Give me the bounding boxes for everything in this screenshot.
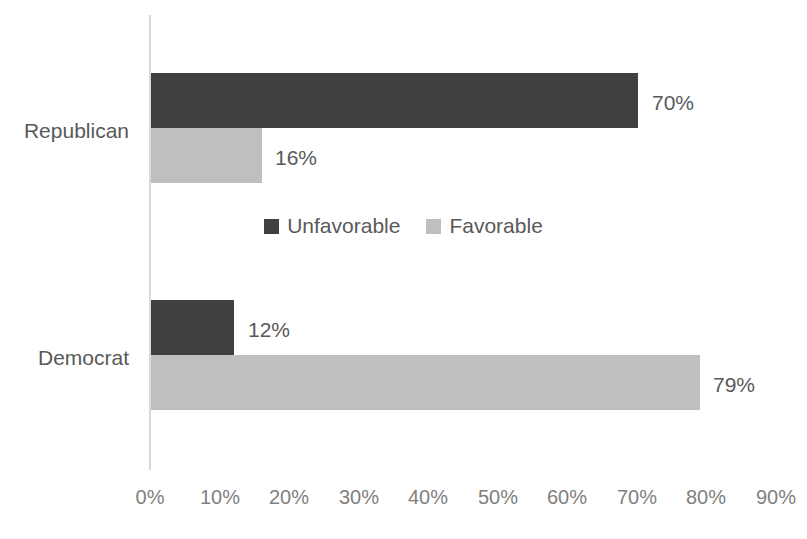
bar-republican-favorable: [151, 128, 262, 183]
bar-chart: 70% 16% Republican 12% 79% Democrat Unfa…: [0, 0, 807, 539]
plot-area: 70% 16% Republican 12% 79% Democrat Unfa…: [0, 0, 807, 539]
data-label-republican-unfavorable: 70%: [652, 92, 694, 113]
data-label-republican-favorable: 16%: [275, 147, 317, 168]
x-tick-90: 90%: [756, 487, 796, 507]
legend-entry-favorable[interactable]: Favorable: [426, 215, 542, 236]
bar-republican-unfavorable: [151, 73, 638, 128]
x-tick-60: 60%: [547, 487, 587, 507]
x-tick-10: 10%: [200, 487, 240, 507]
chart-legend: Unfavorable Favorable: [0, 215, 807, 236]
legend-label-unfavorable: Unfavorable: [287, 215, 400, 236]
category-label-republican: Republican: [24, 120, 129, 141]
x-tick-70: 70%: [617, 487, 657, 507]
x-tick-80: 80%: [686, 487, 726, 507]
bar-democrat-favorable: [151, 355, 700, 410]
x-tick-50: 50%: [478, 487, 518, 507]
legend-swatch-favorable-icon: [426, 219, 441, 234]
bar-democrat-unfavorable: [151, 300, 234, 355]
x-tick-40: 40%: [408, 487, 448, 507]
legend-swatch-unfavorable-icon: [264, 219, 279, 234]
data-label-democrat-unfavorable: 12%: [248, 319, 290, 340]
legend-entry-unfavorable[interactable]: Unfavorable: [264, 215, 400, 236]
data-label-democrat-favorable: 79%: [713, 374, 755, 395]
x-tick-20: 20%: [269, 487, 309, 507]
x-tick-30: 30%: [339, 487, 379, 507]
legend-label-favorable: Favorable: [449, 215, 542, 236]
x-tick-0: 0%: [136, 487, 165, 507]
category-label-democrat: Democrat: [38, 347, 129, 368]
